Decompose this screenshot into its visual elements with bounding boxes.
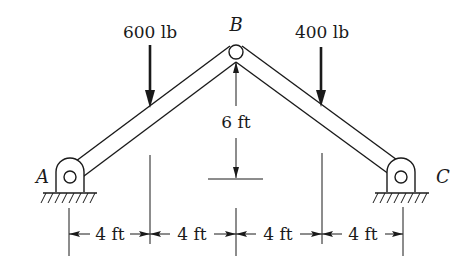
span-label-3: 4 ft <box>263 224 293 244</box>
load-arrow-600 <box>145 45 155 108</box>
span-label-4: 4 ft <box>348 224 378 244</box>
support-a <box>41 158 97 203</box>
support-c <box>373 158 429 203</box>
point-label-b: B <box>228 14 242 35</box>
height-label: 6 ft <box>221 112 251 132</box>
load-label-600: 600 lb <box>123 22 177 42</box>
load-label-400: 400 lb <box>295 22 349 42</box>
pin-b <box>229 45 243 59</box>
span-label-2: 4 ft <box>177 224 207 244</box>
point-label-c: C <box>436 166 450 187</box>
point-label-a: A <box>34 166 49 187</box>
span-label-1: 4 ft <box>95 224 125 244</box>
frame-diagram: 600 lb 400 lb A B C 6 ft 4 ft 4 ft 4 ft … <box>0 0 471 276</box>
load-arrow-400 <box>316 47 326 107</box>
